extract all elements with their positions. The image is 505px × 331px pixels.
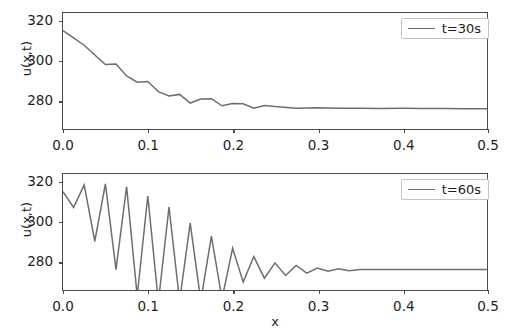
x-tick-top-3: 0.3: [319, 129, 320, 133]
x-tick-label-bottom-2: 0.2: [223, 300, 244, 314]
y-tick-label-top-320: 320: [27, 14, 53, 28]
y-tick-label-bottom-320: 320: [27, 175, 53, 189]
x-tick-bottom-5: 0.5: [488, 290, 489, 294]
x-tick-bottom-0: 0.0: [63, 290, 64, 294]
x-tick-label-bottom-3: 0.3: [308, 300, 329, 314]
x-tick-bottom-1: 0.1: [148, 290, 149, 294]
legend-line-sample-top: [408, 28, 435, 30]
x-tick-top-5: 0.5: [488, 129, 489, 133]
x-tick-label-top-4: 0.4: [393, 139, 414, 153]
x-tick-bottom-2: 0.2: [233, 290, 234, 294]
figure-canvas: u(x,t) 280 300 320 0.0 0.1 0.2: [0, 0, 505, 331]
x-tick-label-top-1: 0.1: [137, 139, 158, 153]
x-tick-label-bottom-0: 0.0: [52, 300, 73, 314]
y-tick-bottom-320: 320: [59, 182, 63, 183]
y-tick-label-bottom-280: 280: [27, 256, 53, 270]
y-tick-top-300: 300: [59, 61, 63, 62]
y-tick-label-top-280: 280: [27, 95, 53, 109]
legend-bottom[interactable]: t=60s: [401, 179, 489, 200]
y-tick-label-top-300: 300: [27, 54, 53, 68]
x-tick-label-bottom-5: 0.5: [477, 300, 498, 314]
x-tick-label-bottom-1: 0.1: [137, 300, 158, 314]
x-tick-label-top-3: 0.3: [308, 139, 329, 153]
y-tick-top-280: 280: [59, 101, 63, 102]
legend-label-bottom: t=60s: [442, 183, 481, 196]
plot-panel-bottom: u(x,t) 280 300 320 0.0 0.1 0.2: [0, 155, 505, 331]
x-tick-top-1: 0.1: [148, 129, 149, 133]
x-tick-top-4: 0.4: [404, 129, 405, 133]
x-tick-label-top-2: 0.2: [223, 139, 244, 153]
x-tick-label-top-0: 0.0: [52, 139, 73, 153]
plot-panel-top: u(x,t) 280 300 320 0.0 0.1 0.2: [0, 0, 505, 155]
y-tick-bottom-280: 280: [59, 262, 63, 263]
y-tick-label-bottom-300: 300: [27, 215, 53, 229]
x-tick-top-0: 0.0: [63, 129, 64, 133]
x-tick-bottom-3: 0.3: [319, 290, 320, 294]
y-tick-bottom-300: 300: [59, 222, 63, 223]
x-tick-top-2: 0.2: [233, 129, 234, 133]
x-axis-label: x: [62, 315, 488, 328]
x-tick-label-bottom-4: 0.4: [393, 300, 414, 314]
x-tick-label-top-5: 0.5: [477, 139, 498, 153]
legend-top[interactable]: t=30s: [401, 18, 489, 39]
legend-label-top: t=30s: [442, 22, 481, 35]
x-tick-bottom-4: 0.4: [404, 290, 405, 294]
y-tick-top-320: 320: [59, 21, 63, 22]
legend-line-sample-bottom: [408, 189, 435, 191]
